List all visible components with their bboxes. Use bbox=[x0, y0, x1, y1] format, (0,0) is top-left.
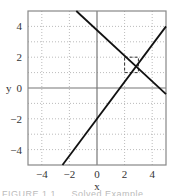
x-tick-label: −4 bbox=[36, 168, 48, 180]
y-axis-label: y bbox=[6, 82, 12, 94]
y-tick-label: 4 bbox=[17, 20, 23, 32]
x-tick-label: −2 bbox=[64, 168, 76, 180]
x-tick-label: 4 bbox=[149, 168, 155, 180]
x-tick-label: 2 bbox=[122, 168, 128, 180]
y-tick-label: 2 bbox=[17, 51, 23, 63]
x-tick-label: 0 bbox=[94, 168, 100, 180]
line-chart: −4−2024420−2−4xy bbox=[0, 0, 174, 196]
y-tick-label: −2 bbox=[10, 113, 22, 125]
y-tick-label: 0 bbox=[17, 82, 23, 94]
figure-caption: FIGURE 1.1 … Solved Example bbox=[2, 189, 144, 196]
y-tick-label: −4 bbox=[10, 144, 22, 156]
